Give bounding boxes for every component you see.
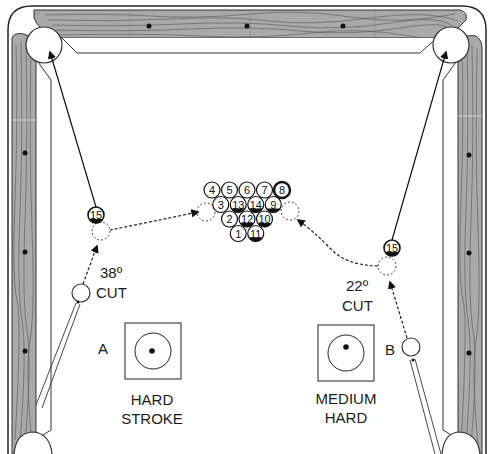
- cue-tip-contact-b: [343, 344, 349, 350]
- stroke-label-a-line2: STROKE: [121, 410, 183, 427]
- rack-ball-9: 9: [265, 197, 281, 213]
- svg-text:8: 8: [279, 184, 285, 196]
- rail-diamond: [467, 153, 472, 158]
- shot-label-b: B: [385, 341, 395, 358]
- cue-tip-diagram-a: [125, 323, 181, 379]
- cut-angle-a: 38º: [100, 264, 123, 281]
- rack-ball-1: 1: [230, 226, 246, 242]
- rack-ball-13: 13: [230, 197, 246, 213]
- left-rail: [12, 34, 36, 454]
- svg-text:11: 11: [250, 228, 261, 240]
- rack-ball-4: 4: [204, 182, 220, 198]
- corner-pocket-top-right: [433, 27, 469, 63]
- object-ball-a: 15: [88, 207, 104, 223]
- left-cushion: [38, 62, 51, 438]
- stroke-label-a-line1: HARD: [131, 391, 174, 408]
- svg-text:3: 3: [218, 199, 224, 211]
- svg-text:14: 14: [250, 199, 262, 211]
- svg-text:2: 2: [226, 213, 232, 225]
- svg-text:6: 6: [244, 184, 250, 196]
- svg-text:13: 13: [232, 199, 244, 211]
- top-rail: [34, 10, 466, 40]
- svg-text:4: 4: [209, 184, 215, 196]
- rail-diamond: [467, 351, 472, 356]
- stroke-label-b-line1: MEDIUM: [316, 390, 377, 407]
- svg-text:12: 12: [241, 213, 253, 225]
- table-outline: [8, 6, 486, 454]
- svg-text:7: 7: [261, 184, 267, 196]
- cue-tip-diagram-b: [318, 325, 374, 381]
- shot-label-a: A: [98, 340, 108, 357]
- rack-ball-3: 3: [213, 197, 229, 213]
- rail-diamond: [23, 349, 28, 354]
- rail-diamond: [245, 24, 250, 29]
- svg-text:15: 15: [386, 242, 398, 254]
- stroke-label-b-line2: HARD: [325, 409, 368, 426]
- corner-pocket-top-left: [26, 27, 62, 63]
- svg-text:15: 15: [90, 209, 102, 221]
- rail-diamond: [23, 151, 28, 156]
- svg-text:5: 5: [226, 184, 232, 196]
- rack-ball-7: 7: [257, 182, 273, 198]
- cue-ball-a: [72, 284, 90, 302]
- cue-ball-b: [402, 338, 420, 356]
- rack-ball-6: 6: [239, 182, 255, 198]
- object-ball-b: 15: [384, 240, 400, 256]
- rail-diamond: [147, 24, 152, 29]
- pool-table-diagram: 15 15 4567831314921210111 38º CUT 22º CU…: [0, 0, 493, 454]
- cut-angle-b: 22º: [346, 277, 369, 294]
- rack-ball-2: 2: [222, 211, 238, 227]
- rack-ball-8: 8: [274, 182, 290, 198]
- rack-ball-14: 14: [248, 197, 264, 213]
- right-rail: [458, 36, 482, 454]
- svg-text:1: 1: [235, 228, 241, 240]
- cut-label-b: CUT: [342, 297, 373, 314]
- cut-label-a: CUT: [96, 284, 127, 301]
- rack-ball-12: 12: [239, 211, 255, 227]
- rail-diamond: [341, 24, 346, 29]
- top-cushion: [62, 38, 437, 53]
- svg-text:9: 9: [270, 199, 276, 211]
- rack-ball-11: 11: [248, 226, 264, 242]
- rail-diamond: [23, 250, 28, 255]
- rail-diamond: [467, 251, 472, 256]
- rack-ball-10: 10: [257, 211, 273, 227]
- right-cushion: [443, 62, 456, 438]
- rack-ball-5: 5: [222, 182, 238, 198]
- cue-tip-contact-a: [149, 348, 155, 354]
- svg-text:10: 10: [258, 213, 270, 225]
